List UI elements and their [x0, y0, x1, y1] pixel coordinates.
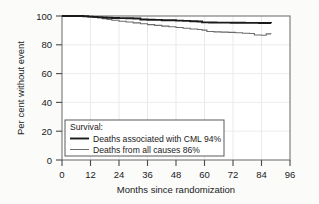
x-tick-label-12: 12: [85, 169, 96, 180]
y-axis-label: Per cent without event: [15, 41, 26, 135]
legend: Survival: Deaths associated with CML 94%…: [65, 120, 224, 156]
y-tick-label-0: 0: [47, 155, 52, 166]
x-tick-label-96: 96: [285, 169, 296, 180]
x-tick-label-24: 24: [114, 169, 125, 180]
y-tick-label-60: 60: [41, 68, 52, 79]
y-tick-label-100: 100: [36, 11, 52, 22]
survival-chart: 100 80 60 40 20 0 0 12 24 36 48 60 72 84…: [0, 0, 319, 204]
x-tick-label-84: 84: [256, 169, 267, 180]
x-tick-label-0: 0: [59, 169, 64, 180]
x-axis-label: Months since randomization: [117, 184, 235, 195]
y-tick-label-80: 80: [41, 39, 52, 50]
x-tick-label-48: 48: [171, 169, 182, 180]
figure-container: 100 80 60 40 20 0 0 12 24 36 48 60 72 84…: [0, 0, 319, 204]
legend-title: Survival:: [70, 122, 103, 132]
x-tick-label-36: 36: [142, 169, 153, 180]
y-tick-label-20: 20: [41, 126, 52, 137]
y-tick-label-40: 40: [41, 97, 52, 108]
legend-label-cml: Deaths associated with CML 94%: [93, 134, 222, 144]
legend-label-all-causes: Deaths from all causes 86%: [93, 145, 200, 155]
x-tick-label-60: 60: [199, 169, 210, 180]
x-tick-label-72: 72: [228, 169, 239, 180]
